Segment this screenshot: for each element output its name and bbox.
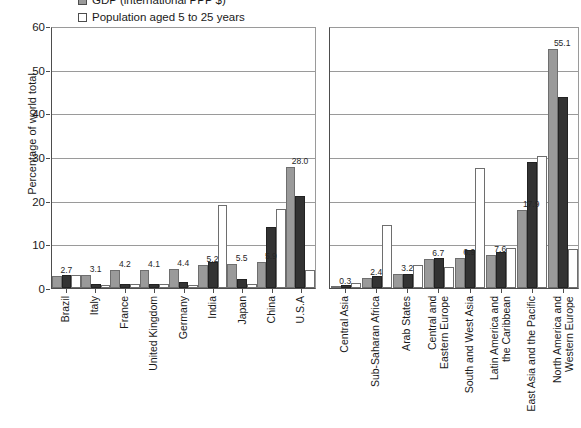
bar-pop [120, 284, 130, 288]
bar-group: 7.6 [485, 28, 516, 288]
bar-young [444, 267, 454, 288]
bar-young [351, 283, 361, 288]
legend-label-young-population: Population aged 5 to 25 years [92, 11, 245, 24]
bar-young [247, 284, 257, 288]
x-axis-label: Italy [80, 289, 109, 424]
bar-value-label: 3.1 [90, 264, 102, 274]
y-axis-tick-mark [46, 158, 50, 159]
x-axis-label-text: Central Asia [339, 296, 351, 353]
x-axis-label-text: Arab States [401, 296, 413, 351]
y-axis-tick-label: 50 [0, 65, 50, 77]
bar-value-label: 6.9 [463, 247, 475, 257]
bar-group: 5.9 [257, 28, 286, 288]
bar-young [305, 270, 315, 288]
y-axis-tick-mark [46, 71, 50, 72]
bar-group: 4.4 [169, 28, 198, 288]
bar-value-label: 4.4 [177, 258, 189, 268]
y-axis-tick-label: 10 [0, 239, 50, 251]
x-axis-labels-countries: BrazilItalyFranceUnited KingdomGermanyIn… [51, 289, 316, 424]
legend-swatch-young-icon [78, 13, 87, 22]
bar-young [159, 284, 169, 288]
y-axis-tick-label: 0 [0, 283, 50, 295]
bar-groups-countries: 2.73.14.24.14.45.25.55.928.0 [52, 28, 315, 288]
y-axis: 0102030405060 [0, 27, 50, 289]
bar-young [568, 249, 578, 288]
bar-group: 3.2 [392, 28, 423, 288]
legend-item-gdp: GDP (international PPP $) [78, 0, 378, 8]
bar-value-label: 5.5 [236, 253, 248, 263]
x-axis-label: China [257, 289, 286, 424]
bar-gdp [286, 167, 296, 288]
x-axis-label: Latin America and the Caribbean [485, 289, 516, 424]
bar-young [382, 225, 392, 288]
bar-young [188, 285, 198, 288]
bar-value-label: 6.7 [432, 248, 444, 258]
bar-young [506, 248, 516, 288]
bar-gdp [362, 278, 372, 288]
x-axis-label: United Kingdom [139, 289, 168, 424]
legend-label-gdp: GDP (international PPP $) [92, 0, 226, 7]
bar-value-label: 4.2 [119, 259, 131, 269]
bar-group: 2.7 [52, 28, 81, 288]
x-axis-label-text: India [207, 296, 219, 319]
legend-item-young-population: Population aged 5 to 25 years [78, 9, 378, 25]
bar-value-label: 5.2 [207, 254, 219, 264]
x-axis-label-text: East Asia and the Pacific [526, 296, 538, 412]
y-axis-tick-mark [46, 27, 50, 28]
bar-gdp [517, 210, 527, 288]
bar-gdp [548, 49, 558, 288]
bar-gdp [169, 269, 179, 288]
bar-pop [208, 262, 218, 288]
bar-value-label: 2.4 [370, 267, 382, 277]
bar-group: 6.9 [454, 28, 485, 288]
x-axis-label: Japan [228, 289, 257, 424]
chart-legend: GDP (international PPP $) Population age… [78, 0, 378, 26]
x-axis-label-text: Italy [89, 296, 101, 315]
bar-gdp [227, 264, 237, 288]
bar-group: 4.1 [140, 28, 169, 288]
bar-value-label: 55.1 [554, 38, 571, 48]
y-axis-tick-mark [46, 114, 50, 115]
bar-group: 2.4 [361, 28, 392, 288]
chart-panel-countries: 2.73.14.24.14.45.25.55.928.0 BrazilItaly… [51, 27, 316, 289]
x-axis-label-text: China [266, 296, 278, 323]
bar-pop [149, 284, 159, 288]
y-axis-tick-label: 30 [0, 152, 50, 164]
x-axis-label-text: Brazil [60, 296, 72, 322]
y-axis-tick-mark [46, 245, 50, 246]
bar-group: 17.9 [516, 28, 547, 288]
x-axis-label: France [110, 289, 139, 424]
bar-gdp [198, 265, 208, 288]
bar-value-label: 5.9 [265, 251, 277, 261]
x-axis-label: East Asia and the Pacific [517, 289, 548, 424]
bar-young [537, 156, 547, 288]
y-axis-tick-label: 60 [0, 21, 50, 33]
bar-group: 0.3 [330, 28, 361, 288]
x-axis-label-text: France [119, 296, 131, 329]
bar-group: 3.1 [81, 28, 110, 288]
bar-group: 4.2 [110, 28, 139, 288]
x-axis-label: Germany [169, 289, 198, 424]
chart-panel-regions: 0.32.43.26.76.97.617.955.1 Central AsiaS… [329, 27, 579, 289]
bar-pop [496, 252, 506, 288]
x-axis-label-text: North America and Western Europe [552, 296, 575, 383]
bar-value-label: 0.3 [339, 276, 351, 286]
bar-gdp [257, 262, 267, 288]
bar-group: 55.1 [547, 28, 578, 288]
bar-pop [91, 284, 101, 288]
x-axis-label: India [198, 289, 227, 424]
x-axis-label: Sub-Saharan Africa [360, 289, 391, 424]
x-axis-label: Central and Eastern Europe [423, 289, 454, 424]
bar-groups-regions: 0.32.43.26.76.97.617.955.1 [330, 28, 578, 288]
bar-pop [179, 282, 189, 288]
x-axis-labels-regions: Central AsiaSub-Saharan AfricaArab State… [329, 289, 579, 424]
bar-group: 5.2 [198, 28, 227, 288]
bar-pop [558, 97, 568, 288]
bar-young [130, 284, 140, 288]
x-axis-label: Arab States [392, 289, 423, 424]
bar-group: 6.7 [423, 28, 454, 288]
bar-gdp [110, 270, 120, 288]
bar-young [413, 265, 423, 288]
bar-gdp [140, 270, 150, 288]
x-axis-label: North America and Western Europe [548, 289, 579, 424]
